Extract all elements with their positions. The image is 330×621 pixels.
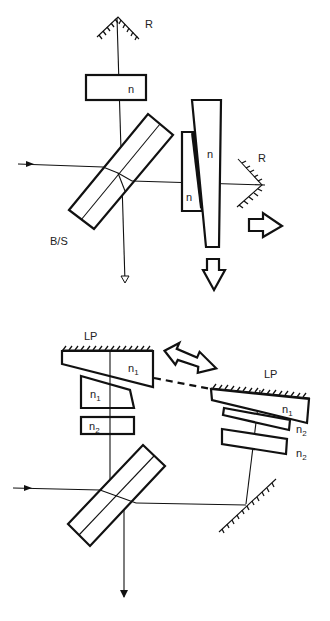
label-compensator: n bbox=[128, 83, 134, 95]
label-mirror-right: R bbox=[258, 152, 266, 164]
label-lp-right: LP bbox=[264, 368, 277, 380]
output-arrow-icon bbox=[120, 590, 128, 598]
compensator-plate bbox=[86, 75, 146, 100]
motion-arrow-bidirectional-icon bbox=[163, 342, 218, 375]
top-interferometer: R n B/S n n bbox=[18, 17, 282, 290]
beam-arrow-down-icon bbox=[121, 276, 129, 283]
motion-arrow-right-icon bbox=[249, 213, 282, 237]
label-lp-left: LP bbox=[84, 330, 97, 342]
label-mirror-top: R bbox=[145, 18, 153, 30]
label-right-plate1: n2 bbox=[296, 423, 307, 438]
optics-diagram: R n B/S n n bbox=[0, 0, 330, 621]
label-right-plate2: n2 bbox=[296, 447, 307, 462]
label-wedge-small: n bbox=[186, 191, 192, 203]
left-wedge-n1 bbox=[62, 351, 153, 387]
motion-arrow-down-icon bbox=[203, 259, 225, 290]
label-beamsplitter: B/S bbox=[50, 235, 68, 247]
bottom-interferometer: LP n1 n1 n2 bbox=[13, 330, 310, 598]
input-arrow-bottom-icon bbox=[24, 485, 32, 491]
beamsplitter bbox=[69, 114, 173, 229]
roof-mirror-right bbox=[237, 159, 262, 208]
input-arrow-icon bbox=[26, 161, 34, 167]
label-wedge-large: n bbox=[207, 148, 213, 160]
flat-mirror-bottom bbox=[219, 479, 276, 533]
dashed-connector bbox=[154, 378, 211, 389]
lp-left-hatch bbox=[63, 346, 150, 350]
